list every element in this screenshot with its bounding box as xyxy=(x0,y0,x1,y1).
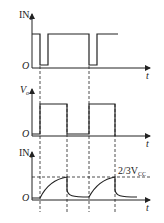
time-markers xyxy=(40,66,115,212)
waveform-canvas xyxy=(0,0,164,223)
origin-label: O xyxy=(22,193,29,203)
in1-waveform xyxy=(32,177,137,198)
origin-label: O xyxy=(22,129,29,139)
in1-label: IN1 xyxy=(19,148,33,161)
vo-waveform xyxy=(32,104,115,136)
t-axis-label: t xyxy=(146,203,149,213)
t-axis-label: t xyxy=(146,139,149,149)
threshold-label: 2/3VCC xyxy=(118,166,146,179)
origin-label: O xyxy=(22,61,29,71)
vo-label: Vo xyxy=(20,85,29,98)
in2-label: IN2 xyxy=(19,10,33,23)
timing-diagram: IN2 O t Vo O t IN1 2/3VCC O t xyxy=(0,0,164,223)
in2-waveform xyxy=(32,34,118,65)
t-axis-label: t xyxy=(146,71,149,81)
